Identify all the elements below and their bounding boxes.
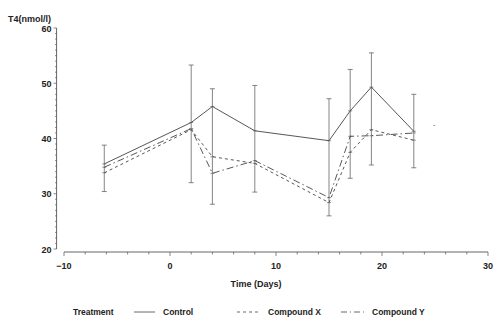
series-compound-y: [104, 129, 414, 198]
legend-item-control: Control: [163, 307, 193, 317]
x-tick-label: −10: [56, 261, 71, 271]
error-bars: [102, 53, 417, 216]
x-tick-label: 10: [271, 261, 281, 271]
y-axis-label: T4(nmol/l): [8, 14, 51, 24]
axes: 2030405060−100102030: [42, 24, 493, 272]
legend-item-compound-x: Compound X: [268, 307, 321, 317]
stray-mark: -: [433, 121, 436, 128]
x-tick-label: 20: [377, 261, 387, 271]
series-lines: [104, 87, 414, 203]
x-axis-label: Time (Days): [231, 279, 282, 289]
series-compound-x: [104, 130, 414, 203]
y-tick-label: 20: [42, 245, 52, 255]
legend-title: Treatment: [73, 307, 114, 317]
legend-item-compound-y: Compound Y: [372, 307, 425, 317]
series-control: [104, 87, 414, 164]
y-tick-label: 40: [42, 134, 52, 144]
t4-line-chart: 2030405060−100102030 T4(nmol/l) Time (Da…: [0, 0, 504, 331]
x-tick-label: 0: [167, 261, 172, 271]
x-tick-label: 30: [483, 261, 493, 271]
y-tick-label: 30: [42, 189, 52, 199]
y-tick-label: 60: [42, 24, 52, 34]
y-tick-label: 50: [42, 79, 52, 89]
legend: Treatment Control Compound X Compound Y: [73, 307, 425, 317]
